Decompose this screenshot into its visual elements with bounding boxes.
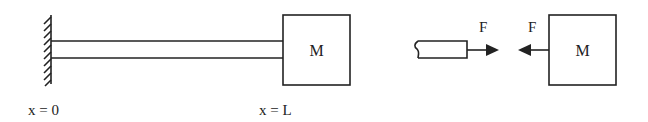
mass-block-right: M xyxy=(549,15,616,85)
force-arrow-left-icon xyxy=(518,44,549,56)
beam xyxy=(51,41,283,58)
force-label-beam: F xyxy=(479,19,487,35)
fixed-wall-icon xyxy=(44,15,51,86)
x-end-label: x = L xyxy=(259,102,292,118)
mass-label-right: M xyxy=(575,42,589,59)
beam-mass-diagram: M x = 0 x = L F F M xyxy=(0,0,648,122)
mass-label-left: M xyxy=(309,42,323,59)
force-arrow-right-icon xyxy=(467,44,499,56)
cut-beam-stub xyxy=(415,41,467,58)
mass-block-left: M xyxy=(283,15,350,85)
force-label-mass: F xyxy=(528,19,536,35)
x-start-label: x = 0 xyxy=(28,102,59,118)
